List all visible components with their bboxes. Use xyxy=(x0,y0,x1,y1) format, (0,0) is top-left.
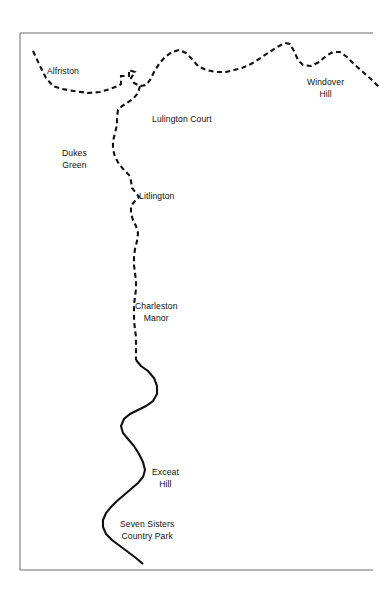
map-label-windover-hill: WindoverHill xyxy=(307,77,344,100)
map-label-line: Dukes xyxy=(62,148,87,160)
map-label-alfriston: Alfriston xyxy=(47,66,79,78)
map-label-line: Seven Sisters xyxy=(120,519,174,531)
map-label-seven-sisters-cp: Seven SistersCountry Park xyxy=(120,519,174,542)
map-label-dukes-green: DukesGreen xyxy=(62,148,87,171)
map-figure: AlfristonWindoverHillLulington CourtDuke… xyxy=(0,0,380,608)
map-label-lulington-court: Lulington Court xyxy=(152,114,212,126)
map-label-litlington: Litlington xyxy=(139,191,174,203)
map-label-line: Alfriston xyxy=(47,66,79,78)
map-label-line: Litlington xyxy=(139,191,174,203)
map-label-line: Green xyxy=(62,160,87,172)
map-label-line: Lulington Court xyxy=(152,114,212,126)
map-label-line: Country Park xyxy=(120,531,174,543)
map-label-line: Hill xyxy=(307,89,344,101)
map-label-line: Windover xyxy=(307,77,344,89)
map-label-exceat-hill: ExceatHill xyxy=(152,467,179,490)
map-label-charleston-manor: CharlestonManor xyxy=(135,301,178,324)
map-label-line: Exceat xyxy=(152,467,179,479)
map-label-line: Charleston xyxy=(135,301,178,313)
map-label-line: Hill xyxy=(152,479,179,491)
map-label-line: Manor xyxy=(135,313,178,325)
